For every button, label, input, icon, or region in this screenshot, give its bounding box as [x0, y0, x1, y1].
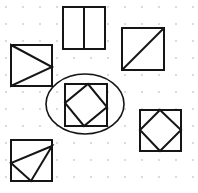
figure-left-outline — [11, 45, 52, 86]
grid-dot — [192, 6, 194, 8]
grid-dot — [192, 91, 194, 93]
grid-dot — [56, 108, 58, 110]
grid-dot — [107, 23, 109, 25]
figure-bottom-right-outline — [140, 110, 181, 151]
grid-dot — [158, 176, 160, 178]
grid-dot — [39, 40, 41, 42]
figure-bottom-left — [11, 140, 52, 181]
grid-dot — [107, 176, 109, 178]
grid-dot — [5, 125, 7, 127]
grid-dot — [124, 125, 126, 127]
grid-dot — [5, 23, 7, 25]
grid-dot — [22, 125, 24, 127]
grid-dot — [56, 142, 58, 144]
grid-dot — [56, 57, 58, 59]
grid-dot — [175, 40, 177, 42]
figure-bottom-right — [140, 110, 181, 151]
grid-dot — [107, 159, 109, 161]
grid-dot — [141, 159, 143, 161]
grid-dot — [22, 108, 24, 110]
grid-dot — [56, 6, 58, 8]
grid-dot — [56, 74, 58, 76]
grid-dot — [73, 159, 75, 161]
grid-dot — [90, 176, 92, 178]
grid-dot — [192, 142, 194, 144]
geometry-figures-svg — [0, 0, 198, 193]
grid-dot — [124, 142, 126, 144]
grid-dot — [175, 23, 177, 25]
grid-dot — [90, 159, 92, 161]
grid-dot — [56, 159, 58, 161]
grid-dot — [124, 91, 126, 93]
grid-dot — [90, 57, 92, 59]
grid-dot — [39, 91, 41, 93]
grid-dot — [192, 159, 194, 161]
grid-dot — [124, 23, 126, 25]
grid-dot — [158, 91, 160, 93]
grid-dot — [22, 91, 24, 93]
grid-dot — [141, 176, 143, 178]
grid-dot — [107, 142, 109, 144]
grid-dot — [22, 6, 24, 8]
grid-dot — [39, 6, 41, 8]
grid-dot — [73, 176, 75, 178]
grid-dot — [175, 57, 177, 59]
grid-dot — [5, 91, 7, 93]
grid-dot — [5, 57, 7, 59]
grid-dot — [175, 159, 177, 161]
grid-dot — [192, 23, 194, 25]
grid-dot — [192, 176, 194, 178]
grid-dot — [5, 159, 7, 161]
grid-dot — [5, 142, 7, 144]
grid-dot — [192, 108, 194, 110]
grid-dot — [90, 142, 92, 144]
grid-dot — [141, 74, 143, 76]
grid-dot — [158, 6, 160, 8]
grid-dot — [39, 108, 41, 110]
grid-dot — [175, 91, 177, 93]
grid-dot — [5, 74, 7, 76]
grid-dot — [107, 57, 109, 59]
grid-dot — [192, 57, 194, 59]
grid-dot — [141, 6, 143, 8]
grid-dot — [192, 40, 194, 42]
figure-top-right — [122, 28, 164, 70]
grid-dot — [5, 40, 7, 42]
grid-dot — [107, 40, 109, 42]
grid-dot — [56, 176, 58, 178]
grid-dot — [107, 6, 109, 8]
grid-dot — [39, 23, 41, 25]
grid-dot — [5, 108, 7, 110]
grid-dot — [175, 6, 177, 8]
grid-dot — [158, 74, 160, 76]
grid-dot — [141, 23, 143, 25]
grid-dot — [175, 176, 177, 178]
grid-dot — [56, 40, 58, 42]
grid-dot — [124, 74, 126, 76]
grid-dot — [158, 23, 160, 25]
grid-dot — [5, 6, 7, 8]
figure-center — [65, 84, 107, 126]
figure-top-middle — [63, 7, 105, 49]
grid-dot — [22, 23, 24, 25]
figure-center-outline — [65, 84, 107, 126]
figure-left — [11, 45, 52, 86]
grid-dot — [124, 159, 126, 161]
grid-dot — [5, 176, 7, 178]
grid-dot — [141, 91, 143, 93]
grid-dot — [124, 176, 126, 178]
grid-dot — [22, 40, 24, 42]
diagram-canvas — [0, 0, 198, 193]
grid-dot — [39, 125, 41, 127]
grid-dot — [56, 23, 58, 25]
grid-dot — [192, 74, 194, 76]
grid-dot — [73, 57, 75, 59]
grid-dot — [107, 74, 109, 76]
grid-dot — [175, 74, 177, 76]
grid-dot — [192, 125, 194, 127]
grid-dot — [73, 142, 75, 144]
grid-dot — [158, 159, 160, 161]
grid-dot — [124, 6, 126, 8]
grid-dot — [56, 91, 58, 93]
